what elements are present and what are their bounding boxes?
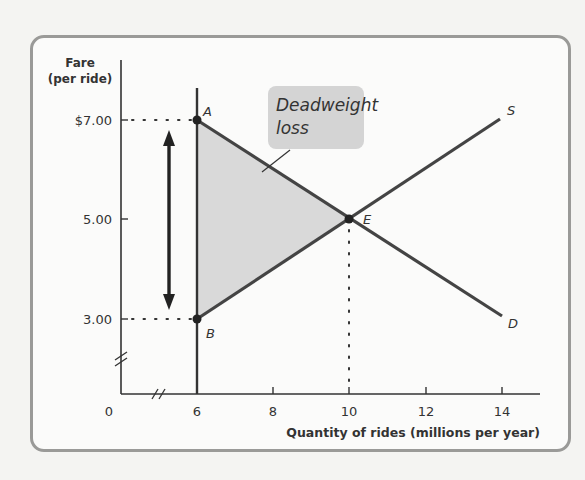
point-e [345,215,354,224]
x-tick-label: 6 [193,404,201,419]
deadweight-loss-region [197,120,349,319]
point-label-b: B [206,326,215,341]
price-gap-arrow-icon [163,130,175,310]
y-axis-label-line2: (per ride) [48,72,113,86]
y-tick-label: 3.00 [83,312,112,327]
x-axis-label: Quantity of rides (millions per year) [286,425,540,440]
x-tick-label: 12 [418,404,435,419]
point-b [193,315,202,324]
x-ticks [273,387,502,394]
callout-text-line2: loss [276,118,309,138]
y-tick-label: $7.00 [75,113,112,128]
curve-label-d: D [508,316,518,331]
point-a [193,116,202,125]
point-label-e: E [363,212,372,227]
x-tick-label: 0 [105,404,113,419]
x-tick-label: 14 [494,404,511,419]
supply-demand-chart: Deadweight loss Fare (per ride) $7.00 5.… [0,0,585,480]
y-tick-label: 5.00 [83,212,112,227]
x-tick-label: 10 [341,404,358,419]
y-ticks [121,120,128,319]
curve-label-s: S [507,103,515,118]
y-axis-label-line1: Fare [65,56,95,70]
x-tick-label: 8 [269,404,277,419]
point-label-a: A [202,104,212,119]
callout-pointer [262,150,290,172]
callout-text-line1: Deadweight [276,95,379,115]
